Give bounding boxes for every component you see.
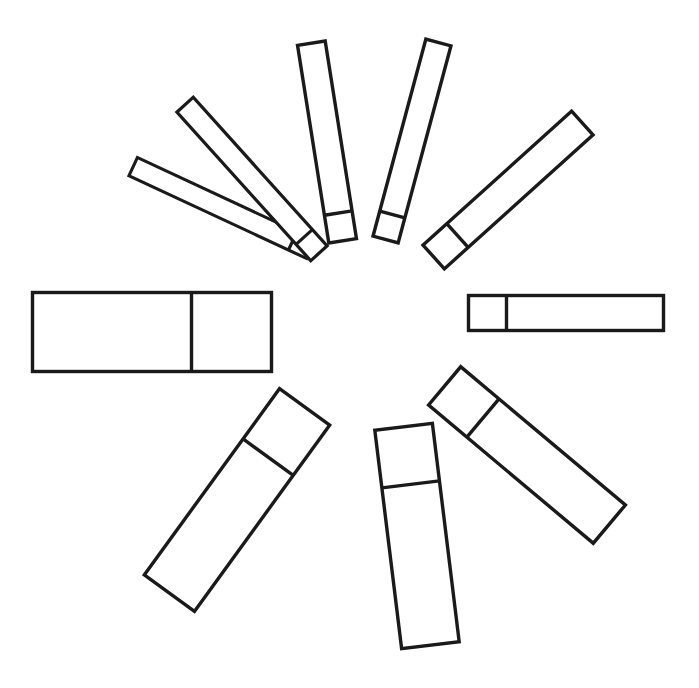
- bar-outline: [469, 296, 664, 331]
- radial-bar: [469, 296, 664, 331]
- radial-bars-canvas: [0, 0, 699, 688]
- radial-bar: [33, 293, 272, 372]
- figure-root: Radial arrangement of ten subdivided rec…: [0, 0, 699, 688]
- bar-outline: [33, 293, 272, 372]
